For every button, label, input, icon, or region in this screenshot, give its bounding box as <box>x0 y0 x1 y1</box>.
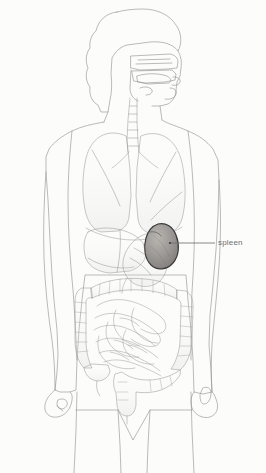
anatomy-figure: spleen <box>0 0 266 473</box>
spleen-label: spleen <box>218 239 243 247</box>
left-lung-outline <box>83 133 131 232</box>
spleen-leader-dot <box>169 242 171 244</box>
spleen-outline <box>145 224 179 269</box>
anatomy-illustration <box>0 0 266 473</box>
